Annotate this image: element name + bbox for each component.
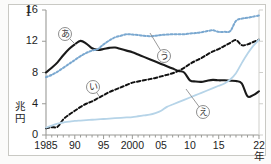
chart-figure: I 兆円 0481216 19859095200005101522 年 あいうえ — [0, 0, 271, 164]
series-line-う — [46, 15, 259, 77]
series-line-い — [46, 40, 259, 129]
series-lines — [46, 15, 259, 128]
series-line-え — [46, 40, 259, 128]
x-tick-label: 1985 — [30, 140, 62, 151]
x-tick-label: 15 — [203, 140, 235, 151]
y-tick-label: 16 — [16, 4, 38, 15]
y-tick-label: 4 — [16, 98, 38, 109]
series-tag-え: え — [196, 105, 210, 119]
x-axis-unit-label: 年 — [254, 151, 264, 162]
x-tick-label: 90 — [59, 140, 91, 151]
x-tick-label: 95 — [88, 140, 120, 151]
y-tick-marks-right — [259, 10, 263, 135]
x-tick-label: 2000 — [116, 140, 148, 151]
series-tag-い: い — [86, 80, 100, 94]
y-tick-label: 12 — [16, 35, 38, 46]
series-line-あ — [46, 41, 259, 97]
x-tick-label: 05 — [145, 140, 177, 151]
y-tick-label: 8 — [16, 67, 38, 78]
series-tag-あ: あ — [58, 27, 72, 41]
x-tick-label: 10 — [174, 140, 206, 151]
series-tag-う: う — [157, 49, 171, 63]
